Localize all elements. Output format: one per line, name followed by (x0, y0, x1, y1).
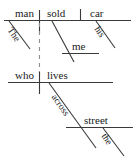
word-prep-object: street (84, 115, 108, 126)
word-relative-pronoun: who (15, 70, 34, 81)
word-verb: sold (47, 8, 65, 19)
word-indirect-object: me (72, 41, 85, 52)
word-subject: man (15, 8, 34, 19)
word-direct-object: car (90, 8, 103, 19)
sentence-diagram: man sold car The me his who lives across… (0, 0, 135, 158)
word-relative-verb: lives (47, 70, 68, 81)
slant-indirect-object (52, 21, 74, 62)
